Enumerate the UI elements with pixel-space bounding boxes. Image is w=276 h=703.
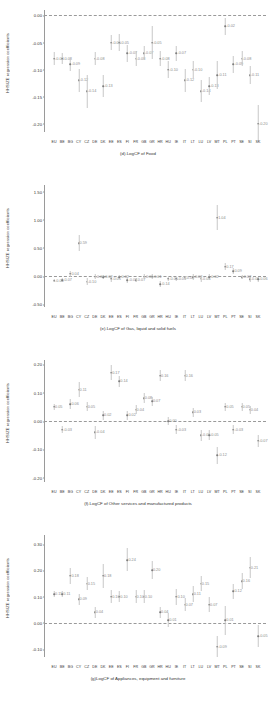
point-value-label: 0.04 bbox=[137, 408, 144, 412]
x-axis-f: EUBEBGCYCZDEDKEEESFIFRGBGRHRHUIEITLTLULV… bbox=[44, 490, 266, 498]
x-tick-label: ES bbox=[117, 140, 122, 144]
y-tick-label: 0.00 bbox=[24, 419, 42, 424]
x-tick-label: BG bbox=[68, 315, 73, 319]
x-tick-label: IE bbox=[175, 490, 178, 494]
y-tick-mark bbox=[43, 248, 46, 249]
point-value-label: 0.07 bbox=[186, 603, 193, 607]
x-tick-label: SK bbox=[256, 490, 261, 494]
point-value-label: 0.15 bbox=[202, 582, 209, 586]
x-tick-label: SE bbox=[239, 665, 244, 669]
x-tick-label: BE bbox=[60, 315, 65, 319]
x-tick-label: GB bbox=[141, 140, 146, 144]
point-value-label: 0.04 bbox=[71, 272, 78, 276]
x-tick-label: HU bbox=[166, 315, 171, 319]
x-tick-label: PL bbox=[223, 315, 227, 319]
x-tick-label: PL bbox=[223, 665, 227, 669]
x-tick-label: FR bbox=[133, 140, 138, 144]
x-tick-label: PT bbox=[231, 665, 236, 669]
x-tick-label: PT bbox=[231, 490, 236, 494]
y-tick-label: 0.10 bbox=[24, 594, 42, 599]
y-axis-label: HHSIZE regression coefficients bbox=[2, 350, 12, 476]
y-axis-label: HHSIZE regression coefficients bbox=[2, 175, 12, 301]
y-tick-mark bbox=[43, 649, 46, 650]
x-tick-label: SE bbox=[239, 140, 244, 144]
x-tick-label: PL bbox=[223, 140, 227, 144]
y-axis-label: HHSIZE regression coefficients bbox=[2, 525, 12, 651]
point-value-label: 0.15 bbox=[88, 582, 95, 586]
y-tick-label: 0.10 bbox=[24, 390, 42, 395]
y-tick-label: 0.20 bbox=[24, 362, 42, 367]
y-axis-label: HHSIZE regression coefficients bbox=[2, 0, 12, 126]
x-tick-label: LT bbox=[191, 315, 195, 319]
x-tick-label: EU bbox=[52, 490, 57, 494]
point-value-label: -0.09 bbox=[218, 645, 227, 649]
x-tick-label: CY bbox=[76, 490, 81, 494]
x-tick-label: PT bbox=[231, 140, 236, 144]
x-tick-label: IE bbox=[175, 140, 178, 144]
point-value-label: -0.08 bbox=[243, 57, 252, 61]
y-tick-label: 0.20 bbox=[24, 568, 42, 573]
x-tick-label: SI bbox=[248, 490, 251, 494]
y-tick-mark bbox=[43, 304, 46, 305]
x-axis-g: EUBEBGCYCZDEDKEEESFIFRGBGRHRHUIEITLTLULV… bbox=[44, 665, 266, 673]
y-tick-mark bbox=[43, 70, 46, 71]
y-tick-label: -0.10 bbox=[24, 67, 42, 72]
x-tick-label: LT bbox=[191, 490, 195, 494]
point-value-label: -0.12 bbox=[186, 78, 195, 82]
point-value-label: 0.18 bbox=[104, 574, 111, 578]
point-value-label: -0.05 bbox=[210, 433, 219, 437]
x-tick-label: HR bbox=[157, 315, 162, 319]
point-value-label: 0.12 bbox=[234, 589, 241, 593]
y-tick-label: 0.00 bbox=[24, 620, 42, 625]
x-axis-e: EUBEBGCYCZDEDKEEESFIFRGBGRHRHUIEITLTLULV… bbox=[44, 315, 266, 323]
point-value-label: -0.02 bbox=[210, 275, 219, 279]
point-value-label: 0.05 bbox=[226, 405, 233, 409]
point-value-label: -0.09 bbox=[71, 62, 80, 66]
x-tick-label: MT bbox=[215, 490, 220, 494]
point-value-label: -0.05 bbox=[259, 634, 268, 638]
point-value-label: 0.02 bbox=[104, 413, 111, 417]
point-value-label: 0.11 bbox=[194, 592, 201, 596]
x-tick-label: FR bbox=[133, 315, 138, 319]
x-tick-label: SI bbox=[248, 665, 251, 669]
x-tick-label: HR bbox=[157, 140, 162, 144]
point-value-label: 0.06 bbox=[71, 402, 78, 406]
x-tick-label: MT bbox=[215, 665, 220, 669]
x-tick-label: CZ bbox=[84, 665, 89, 669]
x-tick-label: CY bbox=[76, 315, 81, 319]
point-value-label: -0.10 bbox=[169, 68, 178, 72]
x-tick-label: CY bbox=[76, 665, 81, 669]
y-tick-mark bbox=[43, 570, 46, 571]
y-tick-label: -0.05 bbox=[24, 40, 42, 45]
y-tick-label: -0.20 bbox=[24, 121, 42, 126]
panel-fuels: HHSIZE regression coefficients 1.501.000… bbox=[0, 175, 276, 350]
point-value-label: -0.07 bbox=[63, 278, 72, 282]
y-tick-mark bbox=[43, 124, 46, 125]
point-value-label: -0.02 bbox=[226, 24, 235, 28]
x-tick-label: LV bbox=[207, 140, 211, 144]
x-tick-label: SI bbox=[248, 140, 251, 144]
y-tick-mark bbox=[43, 597, 46, 598]
zero-reference-line bbox=[44, 421, 266, 422]
zero-reference-line bbox=[44, 623, 266, 624]
x-tick-label: DE bbox=[92, 315, 97, 319]
point-value-label: -0.14 bbox=[161, 282, 170, 286]
point-value-label: 0.04 bbox=[251, 408, 258, 412]
x-tick-label: CY bbox=[76, 140, 81, 144]
x-tick-label: CZ bbox=[84, 140, 89, 144]
x-tick-label: FR bbox=[133, 490, 138, 494]
x-tick-label: GB bbox=[141, 315, 146, 319]
point-value-label: -0.03 bbox=[234, 428, 243, 432]
x-tick-label: PT bbox=[231, 315, 236, 319]
x-tick-label: BG bbox=[68, 490, 73, 494]
x-tick-label: GR bbox=[149, 665, 154, 669]
point-value-label: 0.07 bbox=[153, 399, 160, 403]
x-tick-label: CZ bbox=[84, 315, 89, 319]
point-value-label: 0.04 bbox=[96, 610, 103, 614]
x-tick-label: LU bbox=[199, 315, 204, 319]
point-value-label: -0.13 bbox=[104, 84, 113, 88]
y-tick-label: -0.10 bbox=[24, 447, 42, 452]
x-tick-label: DE bbox=[92, 665, 97, 669]
plot-area-e: 1.501.000.500.00-0.50-0.08-0.070.040.59-… bbox=[44, 185, 266, 307]
x-tick-label: EU bbox=[52, 315, 57, 319]
